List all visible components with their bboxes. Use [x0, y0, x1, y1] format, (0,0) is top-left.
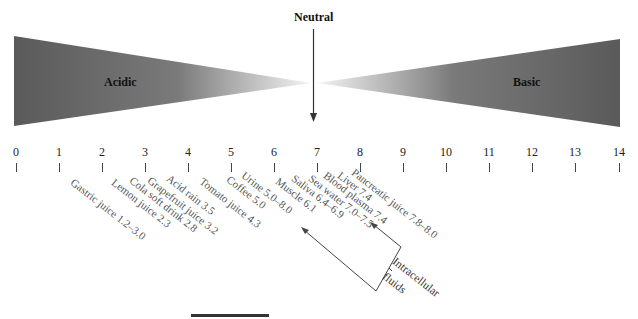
bracket-arrows	[0, 0, 638, 319]
arrowhead-liver	[370, 222, 378, 229]
scale-bar	[191, 314, 269, 317]
